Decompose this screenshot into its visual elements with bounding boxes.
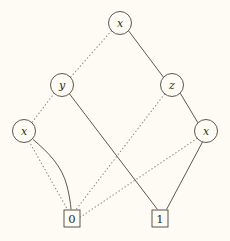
edge-z-to-terminal-0 (76, 94, 165, 210)
node-x-right[interactable]: x (195, 120, 218, 143)
terminal-1-label: 1 (156, 212, 163, 226)
terminal-1[interactable]: 1 (152, 210, 168, 227)
edge-x-right-to-terminal-1 (167, 142, 203, 210)
node-z[interactable]: z (161, 74, 184, 97)
edge-y-to-terminal-1 (70, 94, 158, 210)
edge-root-x-to-z (129, 31, 164, 78)
node-root-x[interactable]: x (109, 12, 132, 35)
node-x-left[interactable]: x (13, 120, 36, 143)
terminal-layer: 0 1 (64, 210, 168, 227)
node-z-label: z (168, 79, 175, 92)
terminal-0-label: 0 (68, 212, 75, 226)
edge-x-left-to-terminal-0-solid (33, 140, 71, 210)
edge-z-to-x-right (180, 93, 198, 123)
edge-layer (29, 31, 203, 217)
node-y-label: y (58, 79, 66, 92)
edge-root-x-to-y (71, 31, 112, 78)
edge-x-left-to-terminal-0-dotted (29, 141, 68, 209)
bdd-canvas: x y z x x 0 (0, 0, 230, 241)
bdd-figure: x y z x x 0 (0, 0, 230, 241)
node-layer: x y z x x (13, 12, 218, 143)
node-root-x-label: x (117, 17, 124, 30)
node-x-right-label: x (203, 125, 210, 138)
terminal-0[interactable]: 0 (64, 210, 80, 227)
edge-x-right-to-terminal-0 (81, 139, 198, 218)
node-x-left-label: x (21, 125, 28, 138)
edge-y-to-x-left (32, 93, 55, 123)
node-y[interactable]: y (51, 74, 74, 97)
